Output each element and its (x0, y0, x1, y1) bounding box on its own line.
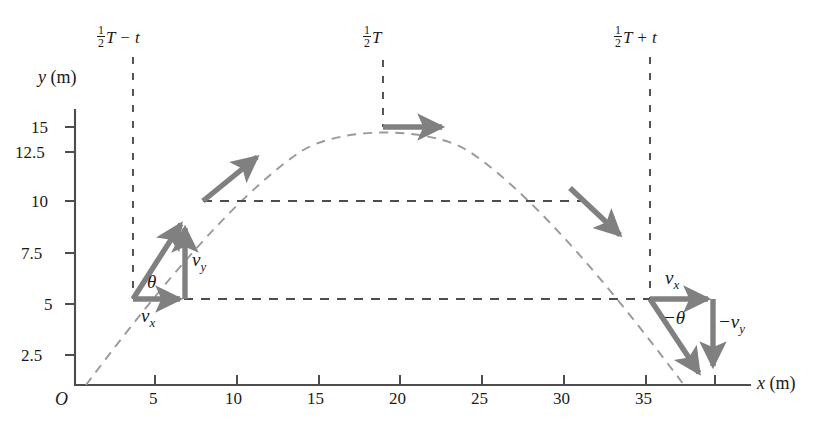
time-label-half-T: 1 2 T (363, 24, 381, 49)
y-axis-ticks (65, 127, 75, 355)
fraction-one-half: 1 2 (363, 24, 371, 49)
angle-label-theta-descending: −θ (663, 308, 685, 327)
x-axis-title: x (m) (757, 374, 796, 392)
time-label-half-T-minus-t: 1 2 T − t (97, 24, 140, 49)
time-label-main: T (372, 28, 381, 47)
y-axis-title: y (m) (38, 68, 77, 86)
guide-lines (133, 201, 650, 299)
y-tick-label-10: 10 (31, 193, 48, 210)
x-tick-label-35: 35 (635, 390, 652, 407)
origin-label: O (55, 390, 68, 408)
x-axis-ticks (155, 375, 715, 385)
y-tick-label-7-5: 7.5 (21, 245, 42, 262)
x-axis-title-var: x (757, 373, 765, 393)
velocity-vector-ascend-2 (203, 157, 257, 201)
velocity-vector-descend-1 (570, 188, 620, 235)
time-label-half-T-plus-t: 1 2 T + t (614, 24, 657, 49)
vector-label-vy-descending: −vy (718, 312, 745, 336)
y-axis-title-unit: (m) (51, 67, 77, 87)
x-axis-title-unit: (m) (770, 373, 796, 393)
x-tick-label-10: 10 (225, 390, 242, 407)
time-label-main: T (106, 28, 115, 47)
y-tick-label-15: 15 (31, 119, 48, 136)
y-tick-label-5: 5 (44, 296, 53, 313)
time-label-op: − t (115, 28, 140, 47)
y-axis-title-var: y (38, 67, 46, 87)
velocity-vectors (133, 127, 699, 373)
x-tick-label-25: 25 (471, 390, 488, 407)
y-tick-label-12-5: 12.5 (15, 144, 45, 161)
vector-label-vx-ascending: vx (141, 306, 155, 330)
fraction-one-half: 1 2 (97, 24, 105, 49)
component-vectors (133, 228, 713, 366)
x-tick-label-30: 30 (553, 390, 570, 407)
x-tick-label-20: 20 (389, 390, 406, 407)
y-tick-label-2-5: 2.5 (21, 347, 42, 364)
time-label-op: + t (632, 28, 657, 47)
x-tick-label-15: 15 (307, 390, 324, 407)
projectile-motion-figure: 15 12.5 10 7.5 5 2.5 5 10 15 20 25 30 35… (0, 0, 825, 433)
velocity-vector-ascend-1 (133, 224, 181, 299)
figure-canvas (0, 0, 825, 433)
trajectory-path (86, 133, 684, 386)
fraction-one-half: 1 2 (614, 24, 622, 49)
axis-lines (75, 110, 750, 385)
angle-label-theta-ascending: θ (147, 272, 156, 291)
x-tick-label-5: 5 (149, 390, 158, 407)
time-marker-lines (133, 57, 650, 299)
time-label-main: T (623, 28, 632, 47)
vector-label-vx-descending: vx (665, 268, 679, 292)
vector-label-vy-ascending: vy (192, 250, 206, 274)
